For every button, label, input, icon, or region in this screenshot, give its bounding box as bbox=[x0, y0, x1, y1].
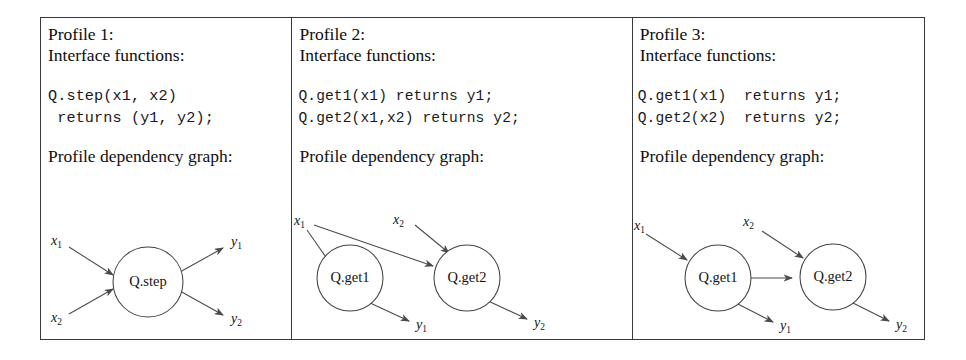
graph-label-y1: y1 bbox=[229, 234, 242, 251]
profile-panel-2: Profile 2: Interface functions: Q.get1(x… bbox=[292, 18, 632, 339]
graph-label-x2: x2 bbox=[50, 310, 62, 327]
graph-label-y2: y2 bbox=[532, 315, 545, 332]
profile-1-graph-heading: Profile dependency graph: bbox=[48, 146, 291, 166]
graph-label-x1: x1 bbox=[633, 218, 645, 235]
profile-2-interface-heading: Interface functions: bbox=[299, 45, 631, 66]
node-qstep-label: Q.step bbox=[129, 273, 166, 289]
profile-2-title: Profile 2: bbox=[299, 24, 631, 45]
profile-1-dependency-graph: Q.step x1 x2 y1 y2 bbox=[41, 219, 291, 339]
node-qget1-label: Q.get1 bbox=[331, 269, 370, 285]
profile-3-code: Q.get1(x1) returns y1; Q.get2(x2) return… bbox=[638, 85, 924, 129]
profile-3-dependency-graph: Q.get1 Q.get2 x1 x2 y1 y2 bbox=[633, 217, 924, 339]
profile-1-title: Profile 1: bbox=[48, 24, 291, 45]
profile-1-code: Q.step(x1, x2) returns (y1, y2); bbox=[48, 85, 291, 129]
graph-label-y2: y2 bbox=[894, 317, 907, 334]
profile-1-interface-heading: Interface functions: bbox=[48, 45, 291, 66]
graph-label-y2: y2 bbox=[229, 311, 242, 328]
edge-qstep-to-y1 bbox=[180, 248, 223, 272]
graph-label-x1: x1 bbox=[293, 213, 305, 230]
edge-x2-qget1-to-y1 bbox=[368, 302, 409, 321]
profile-3-graph-heading: Profile dependency graph: bbox=[640, 146, 924, 166]
profile-2-code: Q.get1(x1) returns y1; Q.get2(x1,x2) ret… bbox=[298, 85, 631, 129]
node-qget1-label: Q.get1 bbox=[698, 269, 737, 285]
graph-label-y1: y1 bbox=[414, 317, 427, 334]
edge-qstep-to-y2 bbox=[180, 291, 223, 315]
node-qget2-label: Q.get2 bbox=[813, 268, 852, 284]
profile-2-graph-heading: Profile dependency graph: bbox=[299, 146, 631, 166]
edge-x3-qget2-to-y2 bbox=[849, 301, 889, 321]
edge-x2-x2-to-qget2 bbox=[415, 225, 449, 253]
edge-x3-x2-to-qget2 bbox=[762, 231, 803, 258]
edge-x3-x1-to-qget1 bbox=[646, 234, 687, 260]
graph-label-x2: x2 bbox=[742, 217, 754, 231]
graph-label-x1: x1 bbox=[50, 233, 62, 250]
profile-3-interface-heading: Interface functions: bbox=[640, 45, 924, 66]
edge-x3-qget1-to-y1 bbox=[734, 302, 773, 322]
profile-comparison-table: Profile 1: Interface functions: Q.step(x… bbox=[40, 17, 925, 340]
graph-label-y1: y1 bbox=[778, 318, 791, 335]
profile-2-dependency-graph: Q.get1 Q.get2 x1 x2 y1 y2 bbox=[292, 211, 631, 339]
profile-panel-1: Profile 1: Interface functions: Q.step(x… bbox=[41, 18, 292, 339]
edge-x2-to-qstep bbox=[69, 289, 113, 314]
node-qget2-label: Q.get2 bbox=[448, 269, 487, 285]
graph-label-x2: x2 bbox=[392, 212, 404, 229]
profile-3-title: Profile 3: bbox=[640, 24, 924, 45]
profile-panel-3: Profile 3: Interface functions: Q.get1(x… bbox=[633, 18, 924, 339]
edge-x1-to-qstep bbox=[69, 247, 113, 275]
edge-x2-qget2-to-y2 bbox=[486, 300, 527, 319]
